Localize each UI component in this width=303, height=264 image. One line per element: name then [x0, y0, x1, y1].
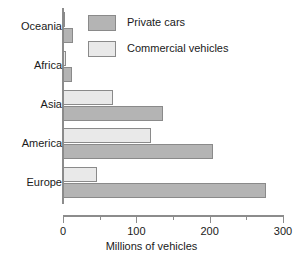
x-tick-200: [210, 215, 211, 223]
bar-commercial-europe: [63, 167, 97, 182]
legend-item-private-cars: Private cars: [88, 14, 228, 31]
x-tick-label-100: 100: [127, 226, 145, 237]
x-tick-0: [63, 215, 64, 223]
bar-private-asia: [63, 106, 163, 121]
legend-swatch-private-cars: [88, 15, 116, 31]
x-tick-150: [173, 215, 174, 220]
category-label-europe: Europe: [27, 177, 62, 188]
x-tick-label-200: 200: [200, 226, 218, 237]
bar-chart: OceaniaAfricaAsiaAmericaEurope Private c…: [0, 0, 303, 264]
x-tick-label-300: 300: [274, 226, 292, 237]
legend-swatch-commercial-vehicles: [88, 41, 116, 57]
chart-legend: Private cars Commercial vehicles: [88, 14, 228, 66]
x-axis-label: Millions of vehicles: [0, 241, 303, 252]
bar-private-africa: [63, 67, 72, 82]
x-tick-50: [100, 215, 101, 220]
legend-item-commercial-vehicles: Commercial vehicles: [88, 40, 228, 57]
x-tick-label-0: 0: [60, 226, 66, 237]
bar-commercial-asia: [63, 90, 113, 105]
x-tick-250: [246, 215, 247, 220]
x-tick-300: [283, 215, 284, 223]
bar-commercial-america: [63, 128, 151, 143]
bar-commercial-africa: [63, 51, 66, 66]
bar-private-europe: [63, 183, 266, 198]
bar-private-america: [63, 144, 213, 159]
x-tick-100: [136, 215, 137, 223]
category-label-africa: Africa: [34, 60, 62, 71]
legend-label-commercial-vehicles: Commercial vehicles: [127, 43, 228, 54]
category-label-oceania: Oceania: [21, 21, 62, 32]
bar-private-oceania: [63, 28, 73, 43]
legend-label-private-cars: Private cars: [127, 17, 185, 28]
bar-commercial-oceania: [63, 12, 65, 27]
category-label-america: America: [22, 138, 62, 149]
category-label-asia: Asia: [41, 99, 62, 110]
